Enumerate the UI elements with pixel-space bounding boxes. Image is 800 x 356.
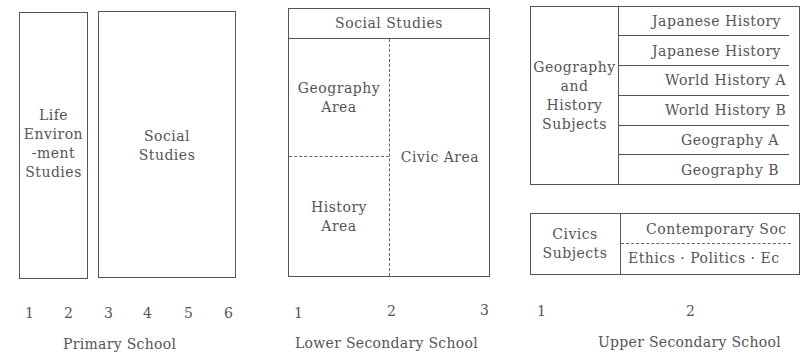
lower-grade-3: 3 bbox=[480, 302, 489, 318]
geography-area-label: Geography Area bbox=[289, 79, 389, 117]
primary-grade-3: 3 bbox=[104, 305, 113, 321]
subject-ethics-politics-economics: Ethics · Politics · Ec bbox=[628, 249, 780, 268]
lower-grade-2: 2 bbox=[387, 303, 396, 319]
history-area-label: History Area bbox=[289, 198, 389, 236]
subject-row-divider bbox=[619, 125, 789, 126]
lower-secondary-school-label: Lower Secondary School bbox=[295, 335, 478, 351]
civic-area-label: Civic Area bbox=[390, 148, 490, 167]
subject-row-divider bbox=[619, 154, 789, 155]
subject-geography-a: Geography A bbox=[681, 131, 779, 150]
civics-subjects-label: Civics Subjects bbox=[530, 225, 620, 263]
subject-row-divider bbox=[619, 35, 789, 36]
lower-grade-1: 1 bbox=[294, 305, 303, 321]
subject-world-history-a: World History A bbox=[665, 71, 786, 90]
primary-grade-5: 5 bbox=[184, 305, 193, 321]
primary-grade-2: 2 bbox=[64, 305, 73, 321]
lower-horizontal-divider bbox=[289, 156, 389, 157]
subject-contemporary-society: Contemporary Soc bbox=[646, 220, 787, 239]
subject-world-history-b: World History B bbox=[665, 101, 786, 120]
lower-social-studies-header: Social Studies bbox=[288, 14, 490, 33]
subject-japanese-history-b: Japanese History bbox=[652, 42, 781, 61]
life-environment-studies-label: Life Environ -ment Studies bbox=[19, 106, 88, 182]
subject-japanese-history-a: Japanese History bbox=[652, 12, 781, 31]
primary-school-label: Primary School bbox=[63, 336, 176, 352]
primary-grade-1: 1 bbox=[25, 305, 34, 321]
primary-grade-4: 4 bbox=[143, 305, 152, 321]
civics-row-divider bbox=[621, 243, 791, 244]
upper-grade-1: 1 bbox=[537, 303, 546, 319]
primary-social-studies-label: Social Studies bbox=[98, 127, 236, 165]
subject-row-divider bbox=[619, 65, 789, 66]
upper-secondary-school-label: Upper Secondary School bbox=[598, 334, 781, 350]
subject-row-divider bbox=[619, 95, 789, 96]
civics-divider bbox=[620, 213, 621, 275]
subject-geography-b: Geography B bbox=[681, 161, 779, 180]
upper-grade-2: 2 bbox=[686, 303, 695, 319]
primary-grade-6: 6 bbox=[224, 305, 233, 321]
geo-history-subjects-label: Geography and History Subjects bbox=[530, 58, 619, 134]
